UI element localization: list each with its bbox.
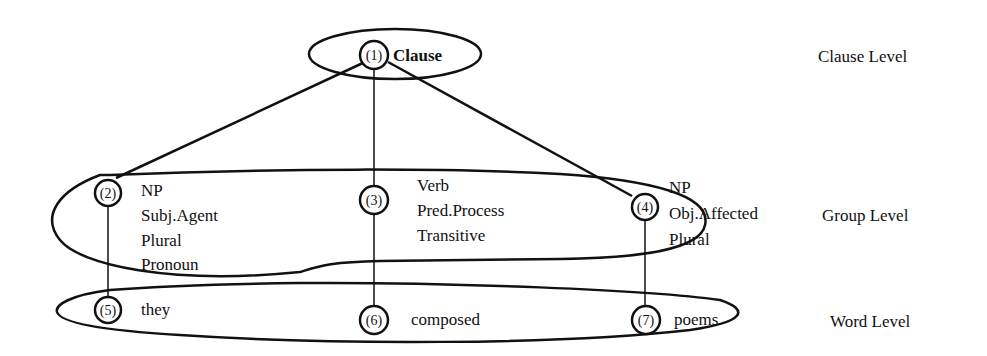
node-feature: Verb — [417, 176, 449, 195]
node-number: (5) — [100, 303, 117, 319]
rank-structure-diagram: (1) Clause (2) NP Subj.Agent Plural Pron… — [0, 0, 987, 356]
node-feature: poems — [674, 310, 718, 329]
node-number: (7) — [638, 313, 655, 329]
node-6: (6) composed — [360, 306, 480, 334]
node-feature: Subj.Agent — [141, 206, 218, 225]
node-feature: composed — [411, 310, 480, 329]
node-3: (3) Verb Pred.Process Transitive — [360, 176, 504, 245]
node-feature: Pronoun — [141, 255, 199, 274]
node-2: (2) NP Subj.Agent Plural Pronoun — [95, 180, 218, 274]
node-number: (4) — [637, 200, 654, 216]
node-5: (5) they — [95, 297, 171, 323]
node-number: (2) — [100, 186, 117, 202]
node-feature: Transitive — [417, 226, 485, 245]
node-feature: Clause — [393, 46, 443, 65]
node-1: (1) Clause — [360, 41, 443, 69]
node-4: (4) NP Obj.Affected Plural — [632, 178, 758, 249]
node-feature: Pred.Process — [417, 201, 504, 220]
node-feature: Obj.Affected — [669, 204, 758, 223]
clause-level-label: Clause Level — [818, 47, 907, 66]
word-level-label: Word Level — [830, 312, 911, 331]
node-feature: Plural — [141, 231, 182, 250]
node-number: (1) — [366, 48, 383, 64]
group-level-label: Group Level — [822, 206, 909, 225]
node-feature: Plural — [669, 230, 710, 249]
node-7: (7) poems — [632, 306, 718, 334]
node-feature: NP — [669, 178, 691, 197]
node-number: (6) — [366, 313, 383, 329]
node-number: (3) — [366, 193, 383, 209]
node-feature: they — [141, 300, 171, 319]
edge-1-2 — [116, 62, 365, 178]
node-feature: NP — [141, 181, 163, 200]
